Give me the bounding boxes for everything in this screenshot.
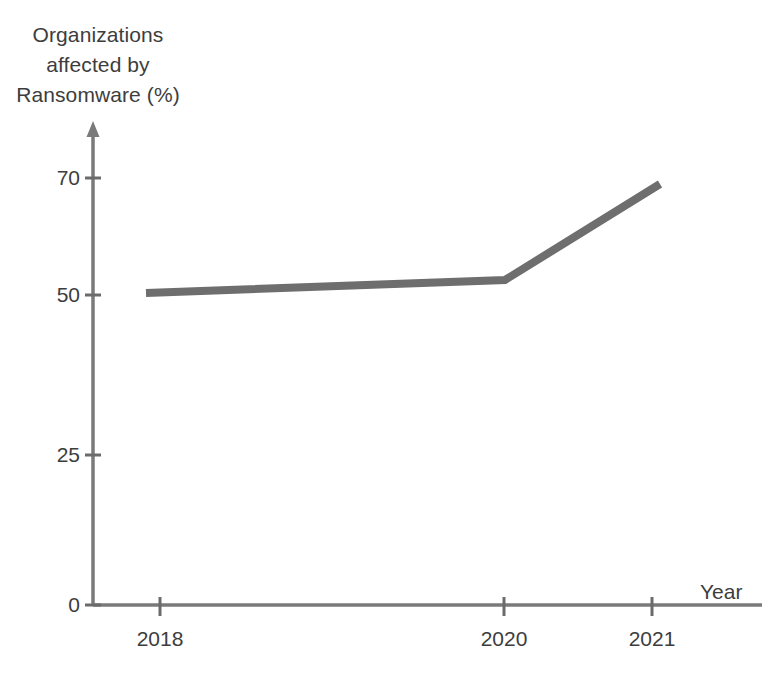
y-tick-label-70: 70 (34, 167, 80, 189)
x-axis-title: Year (700, 580, 742, 604)
x-tick-label-2018: 2018 (115, 627, 205, 651)
y-tick-label-0: 0 (34, 594, 80, 616)
data-series-line (146, 184, 660, 293)
y-tick-label-25: 25 (34, 444, 80, 466)
ransomware-line-chart: Organizations affected by Ransomware (%)… (0, 0, 772, 686)
x-tick-label-2020: 2020 (459, 627, 549, 651)
y-tick-label-50: 50 (34, 284, 80, 306)
y-axis-arrow-icon (87, 121, 100, 137)
plot-area (0, 0, 772, 686)
x-tick-label-2021: 2021 (607, 627, 697, 651)
